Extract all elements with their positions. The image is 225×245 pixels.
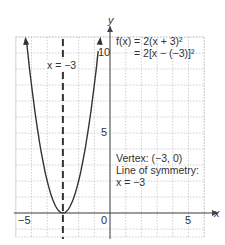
vertex-annotation: Vertex: (−3, 0) (116, 153, 182, 164)
parabola-chart: y x 10 5 −5 0 5 x = −3 f(x) = 2(x + 3)² … (0, 0, 225, 245)
symmetry-line-label: x = −3 (46, 60, 77, 71)
chart-svg (0, 0, 225, 245)
x-tick-5: 5 (185, 215, 191, 226)
x-tick-0: 0 (101, 215, 107, 226)
y-tick-10: 10 (98, 47, 110, 58)
x-axis-label: x (214, 208, 220, 219)
y-axis-label: y (108, 15, 114, 26)
symmetry-annotation-eq: x = −3 (116, 177, 145, 188)
symmetry-annotation-title: Line of symmetry: (116, 165, 199, 176)
y-tick-5: 5 (101, 127, 107, 138)
function-label-2: = 2[x − (−3)]² (134, 48, 194, 59)
x-tick-neg5: −5 (18, 215, 31, 226)
function-label-1: f(x) = 2(x + 3)² (116, 36, 183, 47)
